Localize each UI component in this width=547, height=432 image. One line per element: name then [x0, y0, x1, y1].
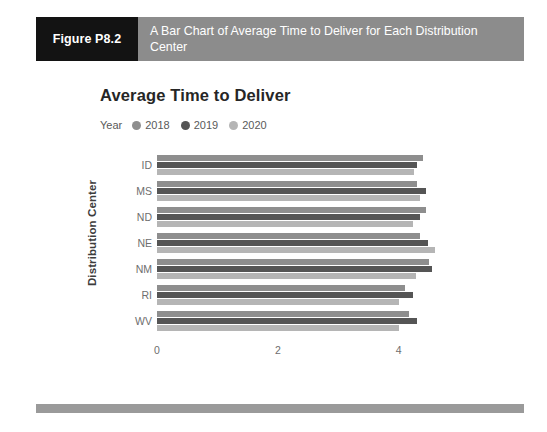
bar-NE-2020 [157, 247, 435, 253]
legend-swatch-icon-2018 [132, 121, 141, 130]
y-axis-tick-label: NE [108, 237, 152, 249]
legend-swatch-icon-2019 [181, 121, 190, 130]
bar-WV-2018 [157, 311, 409, 317]
x-axis-tick-labels: 024 [157, 338, 447, 362]
chart-panel: Average Time to Deliver Year 2018 2019 2… [74, 66, 460, 385]
x-axis-tick-label: 0 [154, 344, 160, 356]
legend-item-2020[interactable]: 2020 [229, 119, 266, 131]
bar-NM-2020 [157, 273, 416, 279]
figure-footer-bar [36, 404, 524, 413]
bar-NE-2018 [157, 233, 420, 239]
bar-NE-2019 [157, 240, 428, 246]
figure-caption-bar: Figure P8.2 A Bar Chart of Average Time … [36, 17, 524, 61]
plot-area: Distribution Center IDMSNDNENMRIWV 024 [74, 152, 460, 372]
bar-ID-2020 [157, 169, 414, 175]
figure-number-tag: Figure P8.2 [36, 17, 138, 61]
y-axis-tick-label: ID [108, 159, 152, 171]
figure-caption-text: A Bar Chart of Average Time to Deliver f… [138, 17, 524, 61]
y-axis-tick-labels: IDMSNDNENMRIWV [108, 152, 152, 334]
bar-ND-2018 [157, 207, 426, 213]
bar-RI-2019 [157, 292, 413, 298]
legend-item-2018[interactable]: 2018 [132, 119, 169, 131]
bar-ID-2019 [157, 162, 417, 168]
bar-MS-2020 [157, 195, 420, 201]
bar-MS-2018 [157, 181, 417, 187]
bars-container [157, 152, 447, 334]
figure-page: Figure P8.2 A Bar Chart of Average Time … [0, 0, 547, 432]
legend-item-2019[interactable]: 2019 [181, 119, 218, 131]
bar-ND-2020 [157, 221, 413, 227]
bar-MS-2019 [157, 188, 426, 194]
legend-label-2018: 2018 [145, 119, 169, 131]
legend-swatch-icon-2020 [229, 121, 238, 130]
bar-ND-2019 [157, 214, 420, 220]
bar-WV-2020 [157, 325, 399, 331]
y-axis-tick-label: NM [108, 263, 152, 275]
chart-title: Average Time to Deliver [100, 86, 291, 105]
bar-RI-2018 [157, 285, 405, 291]
chart-legend: Year 2018 2019 2020 [100, 119, 278, 131]
x-axis-tick-label: 4 [396, 344, 402, 356]
x-axis-tick-label: 2 [275, 344, 281, 356]
figure-number-label: Figure P8.2 [53, 32, 121, 46]
legend-label-2020: 2020 [242, 119, 266, 131]
bar-NM-2018 [157, 259, 429, 265]
legend-label-2019: 2019 [194, 119, 218, 131]
y-axis-tick-label: MS [108, 185, 152, 197]
bar-ID-2018 [157, 155, 423, 161]
legend-title: Year [100, 119, 122, 131]
bar-WV-2019 [157, 318, 417, 324]
bar-RI-2020 [157, 299, 399, 305]
y-axis-tick-label: RI [108, 289, 152, 301]
bar-NM-2019 [157, 266, 432, 272]
y-axis-tick-label: ND [108, 211, 152, 223]
y-axis-tick-label: WV [108, 315, 152, 327]
y-axis-title: Distribution Center [86, 153, 98, 313]
